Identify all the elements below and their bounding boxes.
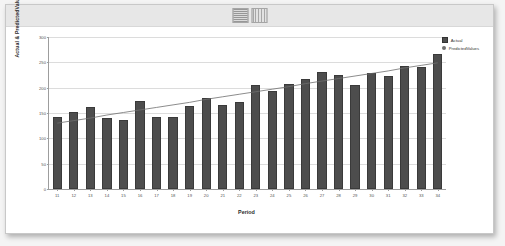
x-tick-mark bbox=[355, 189, 356, 191]
bar-slot: 15 bbox=[115, 37, 132, 189]
x-tick-mark bbox=[123, 189, 124, 191]
bar[interactable] bbox=[202, 98, 211, 189]
screenshot-root: Actual & PredictedValues 050100150200250… bbox=[0, 0, 505, 246]
x-tick-mark bbox=[206, 189, 207, 191]
x-tick-label: 24 bbox=[270, 193, 275, 198]
x-tick-mark bbox=[305, 189, 306, 191]
bar-slot: 25 bbox=[281, 37, 298, 189]
x-tick-label: 21 bbox=[220, 193, 225, 198]
bar[interactable] bbox=[334, 75, 343, 189]
bar-slot: 29 bbox=[347, 37, 364, 189]
x-tick-mark bbox=[90, 189, 91, 191]
bar[interactable] bbox=[417, 67, 426, 189]
bar[interactable] bbox=[301, 79, 310, 189]
bar-slot: 30 bbox=[363, 37, 380, 189]
bar[interactable] bbox=[350, 85, 359, 189]
x-tick-label: 23 bbox=[253, 193, 258, 198]
x-tick-mark bbox=[289, 189, 290, 191]
bar[interactable] bbox=[218, 105, 227, 189]
bar-slot: 26 bbox=[297, 37, 314, 189]
bar[interactable] bbox=[317, 72, 326, 189]
legend-label: PredictedValues bbox=[449, 46, 479, 51]
bar[interactable] bbox=[284, 84, 293, 189]
x-tick-label: 12 bbox=[71, 193, 76, 198]
x-tick-mark bbox=[256, 189, 257, 191]
x-tick-label: 28 bbox=[336, 193, 341, 198]
x-tick-mark bbox=[173, 189, 174, 191]
bar-slot: 20 bbox=[198, 37, 215, 189]
x-tick-label: 19 bbox=[187, 193, 192, 198]
chart-legend: ActualPredictedValues bbox=[442, 37, 479, 51]
bar[interactable] bbox=[102, 118, 111, 189]
y-tick-label: 50 bbox=[41, 161, 46, 166]
bar[interactable] bbox=[86, 107, 95, 189]
bar[interactable] bbox=[268, 91, 277, 189]
thumbnail-graphic-b-icon bbox=[251, 8, 267, 23]
bar-slot: 18 bbox=[165, 37, 182, 189]
legend-square-icon bbox=[442, 37, 448, 43]
x-tick-mark bbox=[140, 189, 141, 191]
x-tick-label: 34 bbox=[436, 193, 441, 198]
legend-label: Actual bbox=[451, 38, 463, 43]
y-tick-label: 300 bbox=[39, 35, 46, 40]
bar[interactable] bbox=[135, 101, 144, 189]
header-thumbnail-group bbox=[232, 8, 267, 23]
legend-item-actual[interactable]: Actual bbox=[442, 37, 479, 43]
x-tick-label: 32 bbox=[402, 193, 407, 198]
x-tick-mark bbox=[272, 189, 273, 191]
bar[interactable] bbox=[53, 117, 62, 189]
bar-slot: 14 bbox=[99, 37, 116, 189]
bar-slot: 23 bbox=[248, 37, 265, 189]
x-tick-mark bbox=[322, 189, 323, 191]
bar-slot: 31 bbox=[380, 37, 397, 189]
bar[interactable] bbox=[384, 76, 393, 189]
bar-slot: 12 bbox=[66, 37, 83, 189]
y-axis-title: Actual & PredictedValues bbox=[14, 0, 20, 73]
x-tick-mark bbox=[421, 189, 422, 191]
y-tick-label: 0 bbox=[44, 187, 46, 192]
bar-slot: 21 bbox=[214, 37, 231, 189]
bar[interactable] bbox=[152, 117, 161, 189]
x-tick-label: 27 bbox=[320, 193, 325, 198]
x-axis-title: Period bbox=[48, 209, 445, 215]
x-tick-label: 14 bbox=[105, 193, 110, 198]
x-tick-label: 29 bbox=[353, 193, 358, 198]
x-tick-mark bbox=[223, 189, 224, 191]
header-band bbox=[6, 5, 493, 27]
bar[interactable] bbox=[367, 73, 376, 189]
bar-slot: 11 bbox=[49, 37, 66, 189]
x-tick-label: 13 bbox=[88, 193, 93, 198]
bar[interactable] bbox=[433, 54, 442, 189]
bar-slot: 32 bbox=[396, 37, 413, 189]
bar[interactable] bbox=[251, 85, 260, 189]
chart-container: Actual & PredictedValues 050100150200250… bbox=[6, 27, 493, 233]
bar-slot: 22 bbox=[231, 37, 248, 189]
x-tick-label: 15 bbox=[121, 193, 126, 198]
x-tick-label: 16 bbox=[138, 193, 143, 198]
chart-area: Actual & PredictedValues 050100150200250… bbox=[18, 31, 483, 229]
bar[interactable] bbox=[69, 112, 78, 189]
bar-slot: 19 bbox=[181, 37, 198, 189]
x-tick-mark bbox=[405, 189, 406, 191]
y-tick-mark bbox=[47, 189, 49, 190]
x-tick-mark bbox=[107, 189, 108, 191]
bar-slot: 16 bbox=[132, 37, 149, 189]
x-tick-label: 22 bbox=[237, 193, 242, 198]
bar[interactable] bbox=[400, 66, 409, 189]
bar[interactable] bbox=[119, 120, 128, 189]
plot-area: 050100150200250300 111213141516171819202… bbox=[48, 37, 446, 190]
x-tick-mark bbox=[388, 189, 389, 191]
legend-item-predictedvalues[interactable]: PredictedValues bbox=[442, 46, 479, 51]
bar[interactable] bbox=[168, 117, 177, 189]
bar-slot: 27 bbox=[314, 37, 331, 189]
x-tick-mark bbox=[190, 189, 191, 191]
x-tick-mark bbox=[74, 189, 75, 191]
x-tick-label: 11 bbox=[55, 193, 59, 198]
x-tick-mark bbox=[239, 189, 240, 191]
bar[interactable] bbox=[235, 102, 244, 189]
bar-slot: 13 bbox=[82, 37, 99, 189]
thumbnail-graphic-a-icon bbox=[232, 8, 248, 23]
bar-slot: 17 bbox=[148, 37, 165, 189]
bar[interactable] bbox=[185, 106, 194, 189]
y-tick-label: 200 bbox=[39, 85, 46, 90]
